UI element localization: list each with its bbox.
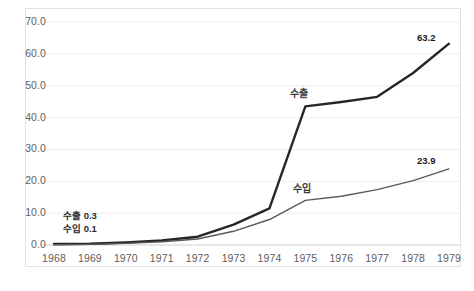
gridlines-group	[42, 22, 460, 245]
series-lines-group	[54, 44, 449, 245]
x-tick-label: 1975	[288, 252, 322, 264]
x-tick-label: 1973	[217, 252, 251, 264]
annotation-start-import: 수입 0.1	[63, 221, 97, 235]
series-label-export: 수출	[290, 85, 308, 100]
x-tick-label: 1972	[181, 252, 215, 264]
y-tick-label: 0.0	[12, 238, 46, 250]
y-tick-label: 30.0	[12, 142, 46, 154]
x-tick-label: 1974	[252, 252, 286, 264]
y-tick-label: 60.0	[12, 47, 46, 59]
series-line-export	[54, 44, 449, 244]
x-tick-label: 1970	[109, 252, 143, 264]
x-tick-label: 1977	[360, 252, 394, 264]
x-tick-label: 1979	[432, 252, 466, 264]
series-line-import	[54, 169, 449, 245]
chart-canvas	[0, 0, 474, 291]
x-tick-label: 1971	[145, 252, 179, 264]
x-tick-label: 1969	[73, 252, 107, 264]
x-tick-label: 1978	[396, 252, 430, 264]
y-tick-label: 10.0	[12, 206, 46, 218]
y-tick-label: 70.0	[12, 15, 46, 27]
x-tick-label: 1968	[37, 252, 71, 264]
y-tick-label: 40.0	[12, 111, 46, 123]
y-tick-label: 20.0	[12, 174, 46, 186]
x-tick-label: 1976	[324, 252, 358, 264]
y-tick-label: 50.0	[12, 79, 46, 91]
data-label-import-1979: 23.9	[417, 155, 436, 166]
series-label-import: 수입	[293, 180, 311, 195]
chart-figure: 0.010.020.030.040.050.060.070.0 19681969…	[0, 0, 474, 291]
annotation-start-export: 수출 0.3	[63, 208, 97, 222]
data-label-export-1979: 63.2	[417, 32, 436, 43]
